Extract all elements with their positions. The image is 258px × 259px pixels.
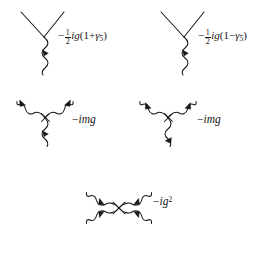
- arrow-lower-down: [42, 131, 48, 137]
- feynman-rules-figure: .ln { fill:none; stroke:#171717; stroke-…: [0, 0, 258, 259]
- arrow-upper-left-incoming: [99, 198, 105, 205]
- label-top-right-fraction: 12: [205, 29, 211, 46]
- arrow-lower-left-incoming: [99, 211, 105, 218]
- label-middle-left: −img: [72, 114, 96, 126]
- label-bottom-exponent: 2: [168, 195, 172, 204]
- label-top-left-close-paren: ): [103, 29, 107, 41]
- arrow-upper-right-incoming: [185, 103, 191, 110]
- boson-arm-lower-left: [86, 208, 119, 224]
- arrow-upper-left-outgoing: [20, 100, 26, 107]
- label-top-left-fraction: 12: [65, 29, 71, 46]
- label-top-left-factor: ig: [71, 29, 80, 41]
- arrow-down: [42, 50, 48, 56]
- boson-arm-upper-right: [119, 193, 152, 209]
- label-top-right-close-paren: ): [243, 29, 247, 41]
- label-top-right-factor: ig: [211, 29, 220, 41]
- boson-arm-upper-left: [140, 102, 168, 119]
- boson-arm-upper-left: [86, 193, 119, 209]
- diagram-bottom: [86, 193, 151, 224]
- diagram-middle-left: [17, 100, 73, 147]
- arrow-upper-left-incoming: [145, 103, 151, 110]
- label-middle-left-body: img: [79, 113, 96, 125]
- arrow-upper-right-incoming: [134, 198, 140, 205]
- fraction-denominator: 2: [205, 38, 211, 46]
- fraction-denominator: 2: [65, 38, 71, 46]
- fermion-line-upper-left: [21, 12, 44, 37]
- arrow-down: [182, 50, 188, 56]
- arrow-upper-right-outgoing: [64, 100, 70, 107]
- boson-arm-upper-right: [168, 102, 196, 119]
- fermion-line-upper-left: [161, 12, 184, 37]
- arrow-lower-up: [165, 138, 171, 144]
- diagram-middle-right: [140, 102, 196, 147]
- label-top-left: −12ig(1+γ5): [58, 29, 107, 46]
- label-top-right-minus: −: [198, 29, 204, 41]
- label-bottom: −ig2: [153, 196, 172, 208]
- label-top-right: −12ig(1−γ5): [198, 29, 247, 46]
- label-middle-right-body: img: [204, 113, 221, 125]
- boson-arm-lower-right: [119, 208, 152, 224]
- boson-wavy-line-down: [182, 37, 188, 75]
- label-middle-right: −img: [197, 114, 221, 126]
- boson-wavy-line-down: [42, 37, 48, 75]
- label-top-left-minus: −: [58, 29, 64, 41]
- arrow-lower-right-incoming: [134, 211, 140, 218]
